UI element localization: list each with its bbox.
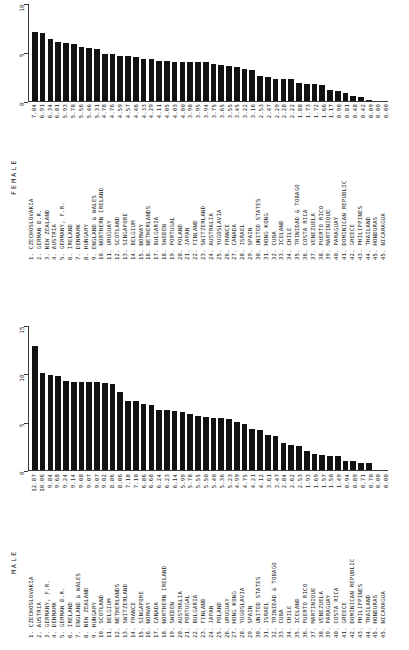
category-label: 29. SPAIN bbox=[247, 227, 253, 260]
value-label-slot: 0.98 bbox=[335, 104, 343, 138]
category-label: 38. PUERTO RICO bbox=[318, 206, 324, 260]
bar-slot bbox=[62, 326, 70, 470]
category-label: 12. SCOTLAND bbox=[114, 217, 120, 260]
value-label-slot: 0.89 bbox=[351, 474, 359, 508]
bar bbox=[32, 32, 38, 101]
bar bbox=[226, 66, 232, 101]
category-label: 39. MARTINIQUE bbox=[325, 209, 331, 260]
category-label: 31. HONG KONG bbox=[263, 213, 269, 260]
category-label: 42. GREECE bbox=[349, 224, 355, 260]
value-label: 3.47 bbox=[274, 474, 280, 488]
bar-slot bbox=[93, 4, 101, 101]
bar-slot bbox=[140, 326, 148, 470]
bar bbox=[110, 384, 116, 470]
category-label: 13. SINGAPORE bbox=[122, 213, 128, 260]
bar bbox=[218, 65, 224, 101]
bar-slot bbox=[342, 4, 350, 101]
value-label: 4.78 bbox=[101, 104, 107, 118]
value-label-slot: 4.78 bbox=[100, 104, 108, 138]
value-label: 9.68 bbox=[54, 474, 60, 488]
y-axis-tick-label: 10 bbox=[19, 4, 25, 12]
category-label: 44. THAILAND bbox=[365, 595, 371, 638]
value-label: 2.28 bbox=[281, 104, 287, 118]
category-label: 38. VENEZUELA bbox=[318, 591, 324, 638]
category-label: 26. FRANCE bbox=[224, 224, 230, 260]
category-label: 2. AUSTRIA bbox=[36, 602, 42, 638]
category-label: 17. BULGARIA bbox=[153, 217, 159, 260]
category-label: 37. VENEZUELA bbox=[310, 213, 316, 260]
category-label: 23. SWITZERLAND bbox=[200, 206, 206, 260]
category-label: 3. NEW ZEALAND bbox=[44, 209, 50, 260]
bar-slot bbox=[248, 4, 256, 101]
bar-slot bbox=[373, 4, 381, 101]
value-label-slot: 5.56 bbox=[77, 104, 85, 138]
value-label-slot: 4.33 bbox=[140, 104, 148, 138]
bar-slot bbox=[109, 4, 117, 101]
category-label: 6. IRELAND bbox=[67, 224, 73, 260]
male-category-labels: 1. CZECHOSLOVAKIA2. AUSTRIA3. GERMANY, F… bbox=[28, 514, 390, 638]
bar-slot bbox=[295, 4, 303, 101]
male-chart-panel: 051015 12.8710.069.849.689.249.149.089.0… bbox=[0, 318, 409, 650]
bar-slot bbox=[217, 326, 225, 470]
category-label: 44. THAILAND bbox=[365, 217, 371, 260]
category-label: 45. HONDURAS bbox=[372, 217, 378, 260]
category-label: 27. CANADA bbox=[231, 224, 237, 260]
category-label: 43. PHILIPPINES bbox=[357, 206, 363, 260]
category-label: 12. NETHERLANDS bbox=[114, 584, 120, 638]
category-label: 45. NICARAGUA bbox=[380, 213, 386, 260]
bar-slot bbox=[109, 326, 117, 470]
bar-slot bbox=[334, 326, 342, 470]
bar bbox=[358, 463, 364, 470]
bar-slot bbox=[272, 4, 280, 101]
bar-slot bbox=[47, 326, 55, 470]
category-label: 34. CHILE bbox=[286, 605, 292, 638]
bar-slot bbox=[47, 4, 55, 101]
bar-slot bbox=[93, 326, 101, 470]
bar bbox=[358, 97, 364, 101]
value-label: 6.34 bbox=[47, 104, 53, 118]
bar-slot bbox=[132, 326, 140, 470]
value-label-slot: 4.57 bbox=[124, 104, 132, 138]
value-label-slot: 9.24 bbox=[61, 474, 69, 508]
value-label-slot: 2.22 bbox=[288, 104, 296, 138]
value-label-slot: 6.34 bbox=[46, 104, 54, 138]
category-label: 22. BULGARIA bbox=[192, 595, 198, 638]
value-label: 4.11 bbox=[156, 104, 162, 118]
value-label-slot: 3.22 bbox=[241, 104, 249, 138]
value-label-slot: 1.17 bbox=[327, 104, 335, 138]
value-label-slot: 1.49 bbox=[335, 474, 343, 508]
bar bbox=[343, 461, 349, 470]
value-label-slot: 5.78 bbox=[187, 474, 195, 508]
category-label: 33. CUBA bbox=[278, 609, 284, 638]
bar-slot bbox=[303, 326, 311, 470]
value-label-slot: 2.62 bbox=[288, 474, 296, 508]
bar-slot bbox=[318, 326, 326, 470]
bar-slot bbox=[202, 4, 210, 101]
bar-slot bbox=[248, 326, 256, 470]
value-label-slot: 1.69 bbox=[312, 474, 320, 508]
value-label: 5.99 bbox=[180, 474, 186, 488]
bar-slot bbox=[233, 4, 241, 101]
bar bbox=[164, 410, 170, 470]
value-label: 0.00 bbox=[383, 474, 389, 488]
category-label: 13. SWITZERLAND bbox=[122, 584, 128, 638]
bar bbox=[288, 79, 294, 101]
female-value-labels: 7.046.916.346.015.935.785.565.465.314.78… bbox=[28, 104, 390, 138]
value-label-slot: 5.23 bbox=[226, 474, 234, 508]
bar-slot bbox=[210, 326, 218, 470]
bar bbox=[265, 435, 271, 470]
category-label: 21. JAPAN bbox=[184, 227, 190, 260]
value-label-slot: 3.94 bbox=[202, 104, 210, 138]
y-axis-tick-label: 10 bbox=[19, 374, 25, 382]
category-label: 35. ICELAND bbox=[294, 598, 300, 638]
bar bbox=[86, 48, 92, 102]
bar-slot bbox=[380, 326, 388, 470]
category-label: 28. ISRAEL bbox=[239, 224, 245, 260]
bar bbox=[149, 59, 155, 101]
value-label-slot: 7.10 bbox=[132, 474, 140, 508]
value-label: 9.08 bbox=[78, 474, 84, 488]
bar bbox=[63, 381, 69, 470]
female-chart-title: FEMALE bbox=[10, 158, 18, 195]
value-label: 1.69 bbox=[313, 474, 319, 488]
bar-slot bbox=[318, 4, 326, 101]
